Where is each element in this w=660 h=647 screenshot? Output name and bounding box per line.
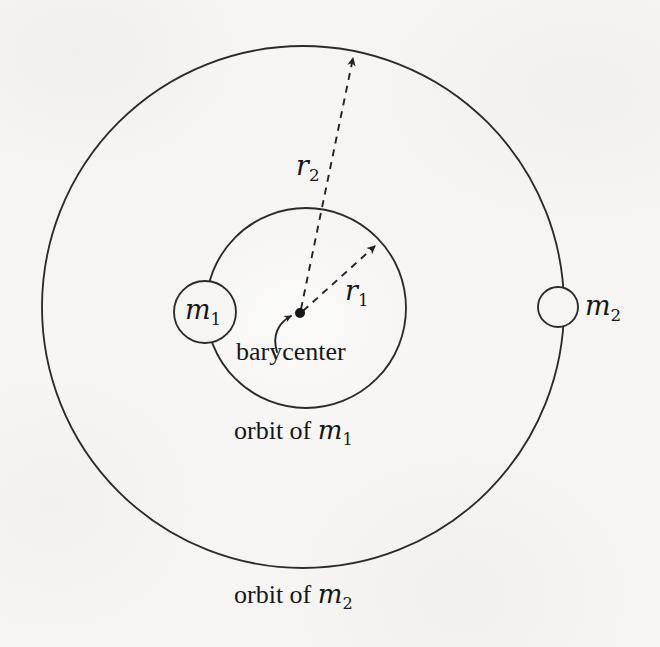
label-mass-2: m2 xyxy=(585,292,621,319)
label-radius-1: r1 xyxy=(345,277,369,304)
body-m2-circle xyxy=(538,287,578,327)
outer-orbit-circle xyxy=(42,46,564,568)
barycenter-orbit-diagram: m1 m2 r2 r1 barycenter orbit of m1 orbit… xyxy=(0,0,660,647)
label-orbit-of-m1: orbit of m1 xyxy=(234,417,353,444)
label-radius-2: r2 xyxy=(296,152,320,179)
barycenter-dot xyxy=(295,308,305,318)
label-barycenter: barycenter xyxy=(236,339,346,365)
label-mass-1: m1 xyxy=(185,296,221,323)
label-orbit-of-m2: orbit of m2 xyxy=(234,581,353,608)
diagram-canvas xyxy=(0,0,660,647)
